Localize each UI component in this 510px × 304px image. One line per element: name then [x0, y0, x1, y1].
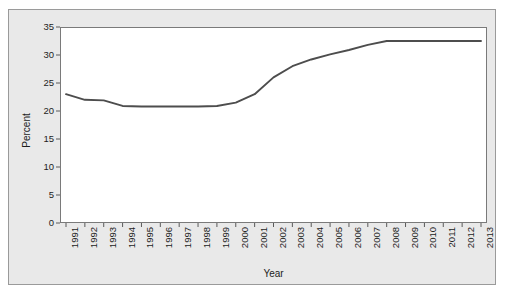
x-axis-tick-label: 2010	[428, 227, 438, 248]
x-axis-tick-label: 2008	[391, 227, 401, 248]
x-axis-tick-label: 2012	[466, 227, 476, 248]
x-axis-tick-label: 2005	[334, 227, 344, 248]
x-axis-tick-labels: 1991199219931994199519961997199819992000…	[0, 0, 510, 304]
y-axis-title: Percent	[21, 101, 32, 161]
x-axis-tick-label: 1992	[89, 227, 99, 248]
x-axis-tick-label: 2013	[485, 227, 495, 248]
x-axis-tick-label: 1991	[70, 227, 80, 248]
x-axis-title: Year	[60, 268, 487, 279]
x-axis-tick-label: 1999	[221, 227, 231, 248]
x-axis-tick-label: 1998	[202, 227, 212, 248]
x-axis-tick-label: 2000	[240, 227, 250, 248]
chart-figure: 05101520253035 1991199219931994199519961…	[0, 0, 510, 304]
x-axis-tick-label: 1996	[164, 227, 174, 248]
x-axis-tick-label: 2011	[447, 227, 457, 247]
x-axis-tick-label: 2003	[296, 227, 306, 248]
x-axis-tick-label: 2009	[410, 227, 420, 248]
x-axis-tick-label: 1997	[183, 227, 193, 248]
x-axis-tick-label: 1993	[108, 227, 118, 248]
x-axis-tick-label: 2004	[315, 227, 325, 248]
x-axis-tick-label: 2002	[278, 227, 288, 248]
x-axis-tick-label: 1995	[145, 227, 155, 248]
x-axis-tick-label: 1994	[127, 227, 137, 248]
x-axis-tick-label: 2006	[353, 227, 363, 248]
x-axis-tick-label: 2007	[372, 227, 382, 248]
x-axis-tick-label: 2001	[259, 227, 269, 248]
